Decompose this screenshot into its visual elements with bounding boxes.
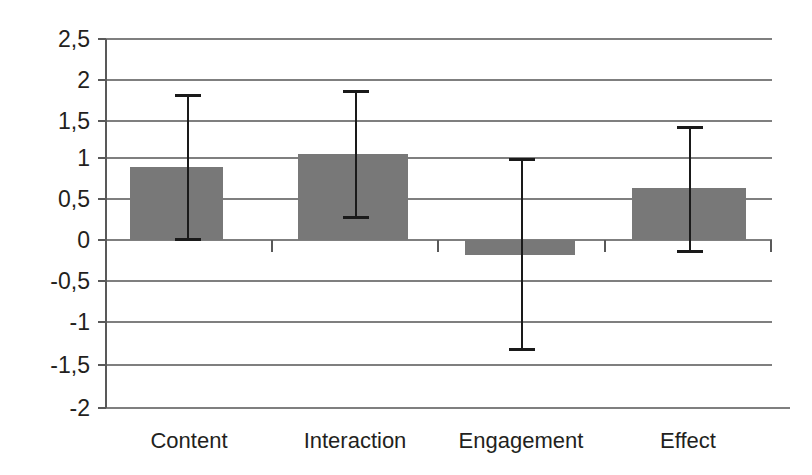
x-label-effect: Effect <box>660 428 716 453</box>
error-bars-group <box>175 91 703 349</box>
y-tick-label-1: 1 <box>77 145 90 171</box>
x-label-content: Content <box>150 428 227 453</box>
y-tick-label-minus-2: -2 <box>70 395 90 421</box>
x-label-engagement: Engagement <box>459 428 584 453</box>
y-tick-label-1-5: 1,5 <box>58 108 90 134</box>
y-tick-label-minus-0-5: -0,5 <box>50 268 90 294</box>
bar-content[interactable] <box>130 167 223 240</box>
y-axis-tick-labels: 2,5 2 1,5 1 0,5 0 -0,5 -1 -1,5 -2 <box>50 26 90 421</box>
y-tick-label-0-5: 0,5 <box>58 186 90 212</box>
y-tick-label-0: 0 <box>77 227 90 253</box>
chart-canvas: 2,5 2 1,5 1 0,5 0 -0,5 -1 -1,5 -2 <box>0 0 812 475</box>
bar-interaction[interactable] <box>298 154 408 240</box>
y-tick-label-2: 2 <box>77 67 90 93</box>
y-tick-label-minus-1: -1 <box>70 309 90 335</box>
y-tick-label-2-5: 2,5 <box>58 26 90 52</box>
x-label-interaction: Interaction <box>304 428 407 453</box>
y-tick-label-minus-1-5: -1,5 <box>50 352 90 378</box>
x-axis-category-labels: Content Interaction Engagement Effect <box>150 428 715 453</box>
bar-chart-figure: 2,5 2 1,5 1 0,5 0 -0,5 -1 -1,5 -2 <box>0 0 812 475</box>
y-axis <box>98 39 106 408</box>
bar-engagement[interactable] <box>465 240 575 255</box>
